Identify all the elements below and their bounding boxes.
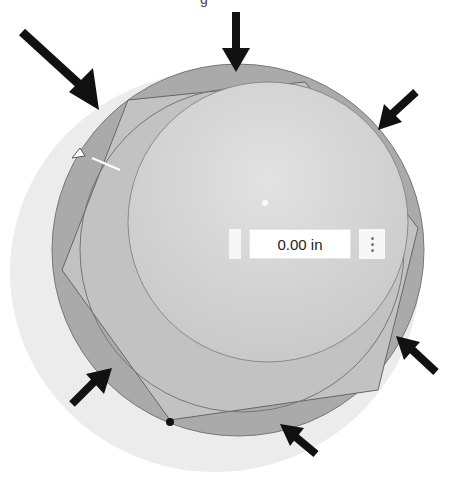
dimension-input-widget: 0.00 in	[229, 229, 385, 259]
arrow-top-icon	[222, 12, 250, 72]
drag-handle[interactable]	[229, 229, 241, 259]
kebab-dot-icon	[371, 243, 374, 246]
arrow-top-left-icon	[22, 32, 99, 110]
arrow-top-right-icon	[378, 92, 416, 130]
dome-face	[128, 82, 408, 362]
dimension-value-field[interactable]: 0.00 in	[249, 229, 351, 259]
arrow-right-bottom-icon	[396, 336, 436, 372]
cad-viewport[interactable]: g	[0, 0, 459, 480]
vertex-point[interactable]	[166, 418, 174, 426]
kebab-dot-icon	[371, 249, 374, 252]
more-options-button[interactable]	[359, 229, 385, 259]
highlight	[262, 200, 268, 206]
kebab-dot-icon	[371, 237, 374, 240]
